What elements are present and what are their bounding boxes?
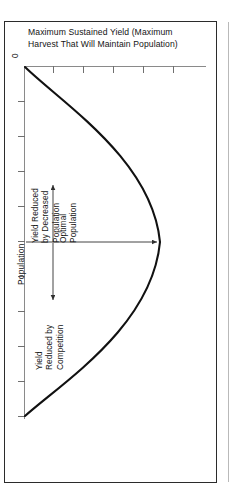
annotation-yield-reduced-decreased: Yield Reduced by Decreased Population <box>30 188 61 243</box>
annotation-optimal-population: Optimal Population <box>58 203 79 243</box>
yield-axis-tick <box>53 66 54 73</box>
yield-axis-line <box>24 66 206 67</box>
chart-title-line-1: Maximum Sustained Yield (Maximum <box>28 27 204 39</box>
chart-title-line-2: Harvest That Will Maintain Population) <box>28 39 204 51</box>
population-axis-tick <box>18 416 25 417</box>
annotation-line: Optimal <box>58 203 68 243</box>
yield-axis-tick <box>173 66 174 73</box>
figure-page: Maximum Sustained Yield (Maximum Harvest… <box>0 0 239 496</box>
population-axis-tick <box>18 101 25 102</box>
population-axis-title: Population <box>16 243 26 285</box>
annotation-line: by Decreased <box>40 188 50 243</box>
origin-label: 0 <box>10 53 20 58</box>
yield-axis-tick <box>143 66 144 73</box>
annotation-line: Yield Reduced <box>30 188 40 243</box>
yield-axis-tick <box>113 66 114 73</box>
population-axis-tick <box>18 171 25 172</box>
annotation-yield-reduced-competition: Yield Reduced by Competition <box>34 325 65 370</box>
page-rule-divider <box>228 22 229 482</box>
population-axis-tick <box>18 381 25 382</box>
population-axis-tick <box>18 311 25 312</box>
population-axis-tick <box>18 136 25 137</box>
figure-frame <box>4 21 217 483</box>
population-axis-tick <box>18 206 25 207</box>
annotation-line: Competition <box>55 325 65 370</box>
population-axis-tick <box>18 241 25 242</box>
yield-axis-tick <box>83 66 84 73</box>
chart-title: Maximum Sustained Yield (Maximum Harvest… <box>28 27 204 50</box>
annotation-line: Reduced by <box>44 325 54 370</box>
population-axis-tick <box>18 346 25 347</box>
annotation-line: Population <box>68 203 78 243</box>
annotation-line: Yield <box>34 325 44 370</box>
